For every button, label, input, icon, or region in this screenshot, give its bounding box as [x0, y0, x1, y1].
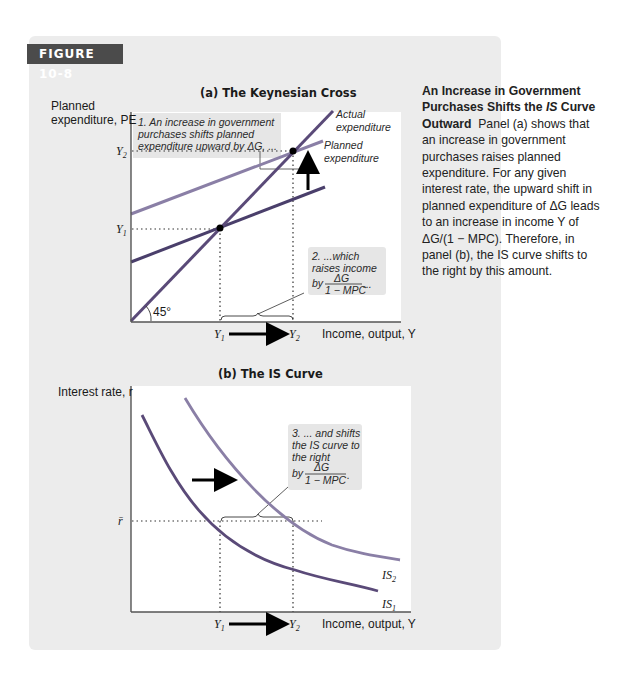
caption-body: Panel (a) shows that an increase in gove…	[422, 117, 600, 279]
panel-b: (b) The IS Curve 3. ... and shifts the I…	[58, 367, 416, 633]
note1-line1: 1. An increase in government	[138, 116, 275, 128]
panel-b-xlabel: Income, output, Y	[322, 617, 416, 631]
panel-b-title: (b) The IS Curve	[218, 367, 323, 381]
planned-expenditure-label-2: expenditure	[324, 152, 379, 164]
note1-line3: expenditure upward by ΔG, ...	[138, 140, 277, 152]
note1-line2: purchases shifts planned	[137, 128, 255, 140]
note2-line1: 2. ...which	[311, 250, 359, 262]
panel-a-xtick-y2: Y2	[289, 327, 300, 343]
actual-expenditure-label-2: expenditure	[336, 121, 391, 133]
actual-expenditure-label-1: Actual	[335, 108, 366, 120]
planned-expenditure-label-1: Planned	[324, 139, 364, 151]
note2-numerator: ΔG	[333, 272, 349, 284]
panel-b-xtick-y1: Y1	[214, 617, 225, 633]
figure-caption: An Increase in Government Purchases Shif…	[422, 83, 600, 280]
panel-a-ytick-y1: Y1	[116, 222, 127, 238]
note3-line1: 3. ... and shifts	[292, 427, 361, 439]
note2-denominator: 1 − MPC	[325, 284, 367, 296]
angle-label: 45°	[153, 305, 171, 319]
panel-b-plot-area	[131, 386, 411, 612]
note3-period: .	[347, 469, 350, 481]
caption-title-italic: IS	[546, 100, 558, 114]
panel-b-ytick-rbar: r̄	[118, 514, 123, 528]
panel-a-ylabel-1: Planned	[51, 99, 95, 113]
equilibrium-point-2	[290, 148, 297, 155]
panel-b-ylabel: Interest rate, r	[58, 385, 133, 399]
panel-a-xtick-y1: Y1	[214, 327, 225, 343]
panel-a-ylabel-2: expenditure, PE	[51, 113, 136, 127]
note3-by: by	[292, 467, 304, 479]
panel-a-xlabel: Income, output, Y	[322, 327, 416, 341]
panel-a-title: (a) The Keynesian Cross	[200, 86, 357, 100]
panel-a-ytick-y2: Y2	[116, 144, 127, 160]
note2-by: by	[312, 277, 324, 289]
panel-a: (a) The Keynesian Cross 1. An increase i…	[51, 86, 416, 343]
note2-ellipsis: ...	[363, 278, 372, 290]
note3-line2: the IS curve to	[292, 439, 360, 451]
note3-denominator: 1 − MPC	[305, 474, 347, 486]
note3-numerator: ΔG	[313, 461, 329, 473]
panel-b-xtick-y2: Y2	[289, 617, 300, 633]
equilibrium-point-1	[217, 225, 224, 232]
